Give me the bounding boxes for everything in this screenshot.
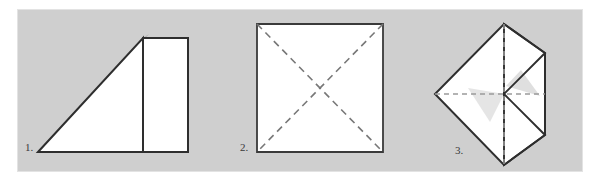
origami-instruction-panel: 1. 2. 3. (0, 0, 600, 182)
figure-2-step-label: 2. (240, 142, 248, 153)
panel-background (17, 9, 583, 172)
figure-3-step-label: 3. (455, 145, 463, 156)
figure-1-step-label: 1. (25, 142, 33, 153)
